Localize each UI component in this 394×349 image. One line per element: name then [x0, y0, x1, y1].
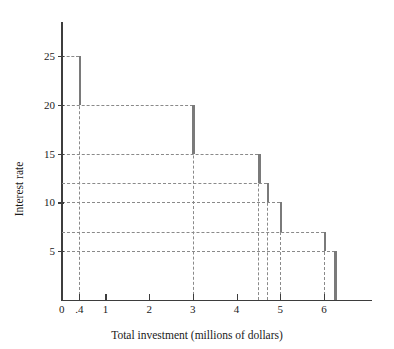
gridline-horizontal [62, 183, 267, 184]
step-bar [79, 56, 82, 105]
x-axis-line [61, 300, 372, 302]
step-bar [258, 154, 261, 183]
y-tick-mark [58, 154, 64, 155]
x-axis-title: Total investment (millions of dollars) [0, 329, 394, 341]
x-tick-mark [280, 294, 281, 300]
x-tick-label: 6 [321, 303, 327, 315]
investment-demand-chart: 0.4123456 252015105 Total investment (mi… [0, 0, 394, 349]
x-tick-label: .4 [75, 303, 83, 315]
y-tick-label: 10 [44, 196, 55, 208]
x-tick-label: 5 [278, 303, 284, 315]
x-tick-mark [324, 294, 325, 300]
x-tick-label: 3 [190, 303, 196, 315]
gridline-horizontal [62, 154, 259, 155]
gridline-horizontal [62, 251, 335, 252]
x-tick-label: 1 [103, 303, 109, 315]
step-bar [267, 183, 270, 203]
y-tick-mark [58, 202, 64, 203]
x-tick-label: 2 [146, 303, 152, 315]
x-tick-label: 4 [234, 303, 240, 315]
step-bar [324, 232, 327, 252]
y-tick-label: 20 [44, 99, 55, 111]
x-tick-label: 0 [59, 303, 65, 315]
x-tick-mark [62, 294, 63, 300]
y-tick-label: 5 [50, 245, 56, 257]
step-bar [192, 105, 195, 154]
y-tick-mark [58, 56, 64, 57]
x-tick-mark [105, 294, 106, 300]
y-axis-title: Interest rate [13, 129, 25, 249]
step-bar [334, 251, 337, 300]
x-tick-mark [79, 294, 80, 300]
y-tick-label: 25 [44, 50, 55, 62]
step-bar [280, 202, 283, 231]
gridline-horizontal [62, 105, 193, 106]
gridline-horizontal [62, 56, 79, 57]
y-axis-line [61, 22, 63, 301]
y-tick-mark [58, 105, 64, 106]
y-tick-mark [58, 251, 64, 252]
x-tick-mark [149, 294, 150, 300]
gridline-horizontal [62, 202, 280, 203]
x-tick-mark [193, 294, 194, 300]
x-tick-mark [237, 294, 238, 300]
y-tick-label: 15 [44, 148, 55, 160]
